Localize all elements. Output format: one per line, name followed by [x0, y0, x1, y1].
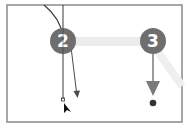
pen-path-diagram: 2 3	[0, 0, 188, 129]
endpoint-dot	[150, 100, 157, 107]
step-marker-3: 3	[140, 28, 166, 54]
step-label-3: 3	[147, 31, 159, 51]
path-segment-highlight	[74, 37, 144, 46]
